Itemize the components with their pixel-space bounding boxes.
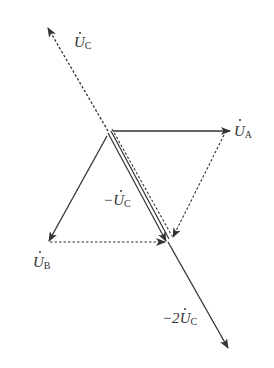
label-neg2-uc: −2UC bbox=[162, 308, 197, 327]
phasor-neg2-uc-line bbox=[168, 242, 228, 348]
construction-line-ua bbox=[173, 135, 224, 237]
svg-text:UA: UA bbox=[234, 123, 253, 140]
svg-text:UB: UB bbox=[33, 254, 51, 271]
label-neg-uc: −UC bbox=[103, 190, 131, 209]
label-uc: UC bbox=[74, 32, 92, 51]
svg-text:−2UC: −2UC bbox=[162, 310, 197, 327]
svg-text:UC: UC bbox=[74, 34, 92, 51]
phasor-diagram: UC UA −UC UB −2UC bbox=[0, 0, 274, 368]
phasor-neg-uc-line-b bbox=[111, 131, 169, 239]
construction-line-parallel bbox=[112, 129, 172, 236]
phasor-ub-line bbox=[49, 136, 107, 241]
label-ub: UB bbox=[33, 251, 51, 271]
phasor-neg-uc-line-a bbox=[108, 133, 166, 241]
label-ua: UA bbox=[234, 119, 253, 140]
svg-text:−UC: −UC bbox=[103, 192, 131, 209]
